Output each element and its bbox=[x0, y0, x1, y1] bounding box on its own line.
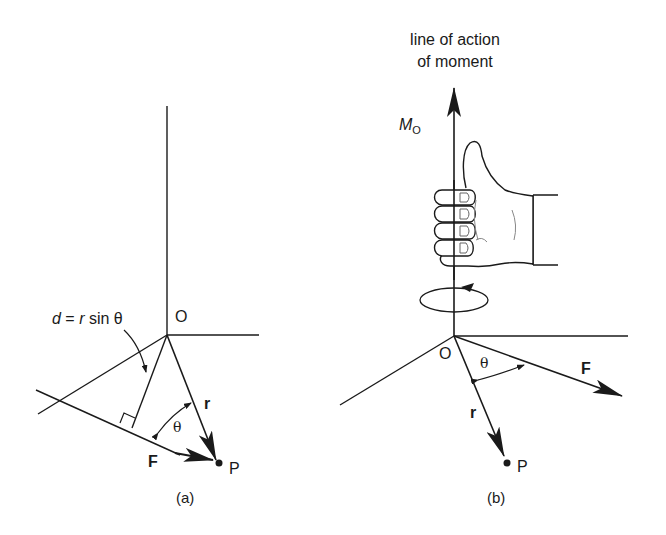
perpendicular-d bbox=[132, 335, 167, 428]
theta-label-b: θ bbox=[480, 355, 488, 371]
theta-label-a: θ bbox=[173, 419, 181, 435]
right-angle-mark bbox=[120, 413, 135, 423]
point-P-a bbox=[216, 460, 223, 467]
position-vector-r-b bbox=[454, 336, 504, 456]
figure-a bbox=[36, 106, 259, 460]
axis-oblique-a bbox=[38, 335, 167, 414]
caption-a: (a) bbox=[176, 489, 194, 506]
diagram-svg: O P r F θ d = r sin θ (a) line of action… bbox=[0, 0, 666, 535]
right-hand-icon bbox=[435, 141, 559, 266]
F-label-b: F bbox=[581, 360, 591, 377]
title-line-2: of moment bbox=[417, 53, 493, 70]
figure-b bbox=[340, 88, 628, 456]
point-label-b: P bbox=[517, 458, 528, 475]
r-label-b: r bbox=[470, 404, 476, 421]
moment-label: MO bbox=[399, 116, 421, 136]
F-label-a: F bbox=[148, 453, 158, 470]
point-label-a: P bbox=[229, 460, 240, 477]
title-line-1: line of action bbox=[410, 31, 500, 48]
point-P-b bbox=[504, 460, 511, 467]
force-vector-F bbox=[175, 453, 213, 460]
moment-diagram: O P r F θ d = r sin θ (a) line of action… bbox=[0, 0, 666, 535]
axis-oblique-b bbox=[340, 336, 454, 405]
distance-formula-label: d = r sin θ bbox=[52, 310, 123, 327]
r-label-a: r bbox=[204, 395, 210, 412]
d-leader-arrow bbox=[124, 330, 146, 372]
origin-label-b: O bbox=[439, 345, 451, 362]
caption-b: (b) bbox=[487, 489, 505, 506]
origin-label-a: O bbox=[175, 308, 187, 325]
force-line-of-action bbox=[36, 390, 180, 455]
rotation-arrowhead bbox=[461, 283, 474, 292]
